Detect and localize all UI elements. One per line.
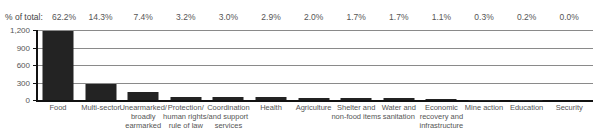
percent-label: 2.9%: [261, 12, 280, 22]
bar: [426, 99, 457, 100]
gridline: [36, 30, 593, 31]
bar: [341, 98, 372, 100]
percent-label: 1.7%: [389, 12, 408, 22]
x-axis-line: [36, 100, 593, 102]
percent-label: 2.0%: [304, 12, 323, 22]
percent-label: 3.0%: [219, 12, 238, 22]
y-tick-label: 900: [17, 43, 30, 52]
bar: [213, 97, 244, 100]
bar: [298, 98, 329, 100]
percent-label: 3.2%: [176, 12, 195, 22]
y-tick-label: 300: [17, 78, 30, 87]
y-axis-line: [36, 30, 38, 101]
percent-label: 0.2%: [517, 12, 536, 22]
bar: [383, 98, 414, 100]
gridline: [36, 48, 593, 49]
percent-label: 7.4%: [134, 12, 153, 22]
bar: [256, 97, 287, 100]
category-label: Security: [539, 103, 599, 112]
percent-label: 62.2%: [52, 12, 76, 22]
percent-label: 0.0%: [560, 12, 579, 22]
bar: [43, 31, 74, 100]
y-tick-label: 600: [17, 61, 30, 70]
percent-label: 1.1%: [432, 12, 451, 22]
gridline: [36, 65, 593, 66]
percent-label: 14.3%: [89, 12, 113, 22]
percent-of-total-label: % of total:: [5, 12, 43, 22]
y-tick-label: 1,200: [10, 26, 30, 35]
bar: [128, 92, 159, 100]
percent-label: 0.3%: [474, 12, 493, 22]
bar: [85, 84, 116, 100]
bar: [170, 97, 201, 101]
gridline: [36, 83, 593, 84]
percent-label: 1.7%: [347, 12, 366, 22]
